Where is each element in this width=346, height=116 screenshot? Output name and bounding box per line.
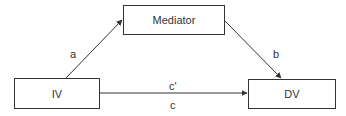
iv-label: IV bbox=[52, 88, 62, 100]
edge-a-label: a bbox=[70, 49, 76, 60]
dv-node: DV bbox=[248, 79, 336, 109]
iv-node: IV bbox=[14, 78, 100, 109]
dv-label: DV bbox=[284, 88, 299, 100]
edge-c-label: c bbox=[170, 100, 176, 111]
mediator-node: Mediator bbox=[123, 5, 225, 35]
edge-c-prime-label: c' bbox=[169, 81, 177, 92]
edge-b-label: b bbox=[273, 49, 279, 60]
mediator-label: Mediator bbox=[153, 14, 196, 26]
